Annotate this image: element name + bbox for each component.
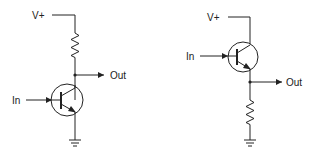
left-input-label: In [12,95,20,106]
circuit-common-emitter [26,15,104,146]
supply-wire [52,15,75,33]
left-output-label: Out [110,70,126,81]
ground-icon [244,140,256,146]
npn-transistor-icon [228,42,258,72]
emitter-resistor-icon [246,100,254,140]
junction-dot [248,80,251,83]
right-supply-label: V+ [207,12,220,23]
ground-icon [69,140,81,146]
right-output-label: Out [286,77,302,88]
output-arrow-icon [98,72,104,78]
left-supply-label: V+ [32,10,45,21]
schematic-canvas: V+ Out In V+ In Out [0,0,313,157]
right-input-label: In [186,51,194,62]
junction-dot [73,73,76,76]
circuit-emitter-follower [200,17,282,146]
input-arrow-icon [222,53,228,59]
supply-wire [228,17,250,44]
output-arrow-icon [276,79,282,85]
